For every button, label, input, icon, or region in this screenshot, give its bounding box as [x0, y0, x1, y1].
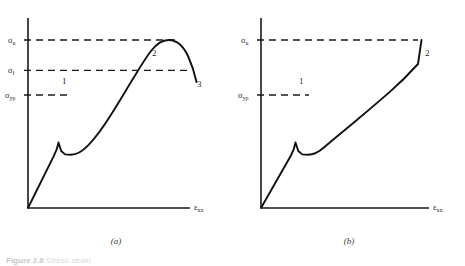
figure-caption-label: Figure — [6, 256, 30, 265]
x-axis-label-b: εxx — [433, 202, 443, 212]
curve-point-label-2-a: 2 — [152, 48, 157, 58]
curve-point-label-3-a: 3 — [197, 79, 202, 89]
figure-caption: Figure 2.8 Stress-strain — [6, 256, 91, 266]
stress-strain-curve-a — [28, 40, 197, 208]
y-tick-label-sigma-u-a: σu — [8, 35, 16, 45]
curve-point-label-1-b: 1 — [299, 76, 304, 86]
y-tick-label-sigma-yp-b: σyp — [238, 90, 249, 100]
chart-panel-a: σu σf σyp εxx 1 2 3 (a) — [0, 0, 232, 264]
figure-caption-text: Stress-strain — [46, 256, 91, 265]
curve-point-label-1-a: 1 — [62, 76, 67, 86]
chart-panel-b: σu σyp εxx 1 2 (b) — [233, 0, 465, 264]
y-tick-label-sigma-f-a: σf — [8, 65, 15, 75]
panel-caption-a: (a) — [0, 236, 232, 246]
y-tick-label-sigma-u-b: σu — [241, 35, 249, 45]
chart-b-svg — [233, 0, 465, 264]
figure-caption-number: 2.8 — [33, 256, 44, 265]
y-tick-label-sigma-yp-a: σyp — [5, 90, 16, 100]
x-axis-label-a: εxx — [194, 202, 204, 212]
chart-a-svg — [0, 0, 232, 264]
stress-strain-curve-b — [261, 40, 422, 208]
curve-point-label-2-b: 2 — [425, 48, 430, 58]
panel-caption-b: (b) — [233, 236, 465, 246]
